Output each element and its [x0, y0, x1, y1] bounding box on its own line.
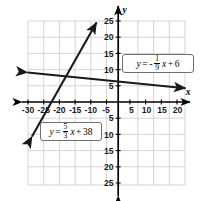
- equation-label-1: y = - 1 9 x + 6: [122, 54, 194, 73]
- y-tick-label: 5: [109, 113, 114, 123]
- x-tick-label: 15: [157, 105, 167, 115]
- equation-2-equals: =: [55, 127, 60, 137]
- equation-2-constant: 38: [83, 127, 93, 137]
- coordinate-graph: -30 -25 -20 -15 -10 -5 5 10 15 20 25 20 …: [0, 0, 202, 201]
- equation-2-denominator: 3: [63, 132, 69, 140]
- y-tick-label: 15: [104, 49, 114, 59]
- x-tick-label: -10: [85, 105, 98, 115]
- equation-1-constant: 6: [175, 59, 180, 69]
- equation-label-2: y = 5 3 x + 38: [40, 122, 102, 141]
- equation-1-sign: -: [149, 59, 152, 69]
- x-tick-label: 10: [142, 105, 152, 115]
- y-tick-label: 20: [104, 32, 114, 42]
- x-tick-label: 20: [173, 105, 183, 115]
- equation-2-plus: +: [76, 127, 81, 137]
- equation-1-plus: +: [168, 59, 173, 69]
- x-tick-label: -30: [22, 105, 35, 115]
- y-tick-label: 10: [104, 130, 114, 140]
- equation-2-fraction: 5 3: [63, 123, 69, 140]
- y-tick-label: 5: [109, 81, 114, 91]
- equation-2-lhs: y: [50, 127, 54, 137]
- y-tick-label: 20: [104, 162, 114, 172]
- x-axis-label: x: [185, 87, 191, 97]
- y-tick-label: 15: [104, 146, 114, 156]
- equation-2-content: y = 5 3 x + 38: [50, 123, 93, 140]
- x-tick-label: -20: [53, 105, 66, 115]
- y-tick-label: 25: [104, 178, 114, 188]
- equation-1-lhs: y: [137, 59, 141, 69]
- equation-1-fraction: 1 9: [154, 55, 160, 72]
- equation-1-denominator: 9: [154, 64, 160, 72]
- equation-1-equals: =: [142, 59, 147, 69]
- equation-2-variable: x: [70, 127, 74, 137]
- x-tick-label: 5: [129, 105, 134, 115]
- line-steep: [32, 23, 97, 137]
- equation-1-content: y = - 1 9 x + 6: [137, 55, 180, 72]
- y-axis-label: y: [121, 5, 127, 15]
- x-tick-label: -15: [69, 105, 82, 115]
- equation-1-variable: x: [162, 59, 166, 69]
- y-tick-label: 10: [104, 65, 114, 75]
- graph-canvas: -30 -25 -20 -15 -10 -5 5 10 15 20 25 20 …: [0, 0, 202, 201]
- y-tick-label: 25: [104, 16, 114, 26]
